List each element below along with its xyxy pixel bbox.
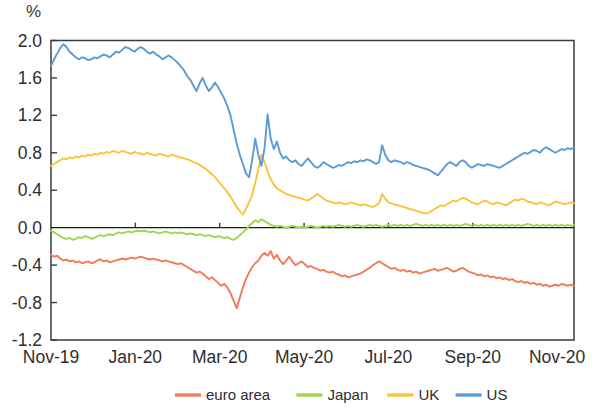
chart-container: % 2.01.61.20.80.40.0-0.4-0.8-1.2 Nov-19J… [0,0,599,413]
y-tick-label: -0.4 [12,255,42,275]
series-line-euro-area [51,251,574,308]
series-line-Japan [51,219,574,240]
plot-frame [51,41,574,341]
x-tick-label: Nov-20 [529,347,586,367]
y-tick-label: 0.0 [18,218,43,238]
legend-label-US: US [487,386,508,403]
y-tick-label: 1.6 [18,68,42,88]
y-tick-label: 2.0 [18,31,43,51]
x-tick-label: Sep-20 [445,347,502,367]
legend-label-UK: UK [418,386,439,403]
y-tick-label: -0.8 [12,293,42,313]
series-line-US [51,44,574,177]
series-line-UK [51,151,574,215]
x-tick-label: Nov-19 [23,347,79,367]
x-tick-label: Jul-20 [365,347,413,367]
y-axis-tick-labels: 2.01.61.20.80.40.0-0.4-0.8-1.2 [12,31,42,351]
line-chart-svg: 2.01.61.20.80.40.0-0.4-0.8-1.2 Nov-19Jan… [0,0,599,413]
y-tick-label: 0.4 [18,180,43,200]
x-tick-label: Jan-20 [109,347,163,367]
legend-label-euro-area: euro area [206,386,271,403]
x-tick-label: May-20 [275,347,334,367]
data-series-group [51,44,574,308]
chart-legend: euro areaJapanUKUS [175,386,507,403]
legend-label-Japan: Japan [327,386,368,403]
y-tick-label: 1.2 [18,105,42,125]
x-axis-tick-labels: Nov-19Jan-20Mar-20May-20Jul-20Sep-20Nov-… [23,347,586,367]
y-tick-label: 0.8 [18,143,42,163]
y-axis-tick-marks [51,41,57,341]
x-tick-label: Mar-20 [192,347,248,367]
